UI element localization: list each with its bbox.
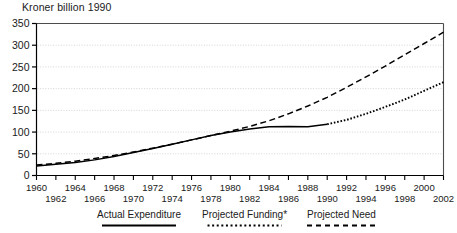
x-tick-label-row2: 1982 xyxy=(239,193,260,204)
x-tick-label-row2: 2002 xyxy=(433,193,454,204)
x-axis: 1960196419681972197619801984198819921996… xyxy=(26,176,454,204)
series-line-dashed xyxy=(37,32,444,165)
x-tick-label-row2: 1970 xyxy=(123,193,144,204)
y-tick-label: 300 xyxy=(12,39,30,51)
x-tick-label-row1: 1960 xyxy=(26,182,47,193)
x-tick-label-row1: 1980 xyxy=(220,182,241,193)
chart-legend: Actual ExpenditureProjected Funding*Proj… xyxy=(97,209,376,220)
x-tick-label-row1: 1992 xyxy=(336,182,357,193)
data-series-group xyxy=(37,32,444,166)
y-axis: 050100150200250300350 xyxy=(12,17,37,181)
x-tick-label-row1: 1996 xyxy=(375,182,396,193)
x-tick-label-row2: 1998 xyxy=(394,193,415,204)
x-tick-label-row2: 1966 xyxy=(84,193,105,204)
grid-lines xyxy=(38,45,443,154)
y-tick-label: 0 xyxy=(24,169,30,181)
y-tick-label: 100 xyxy=(12,126,30,138)
y-tick-label: 250 xyxy=(12,61,30,73)
y-tick-label: 200 xyxy=(12,82,30,94)
x-tick-label-row2: 1962 xyxy=(45,193,66,204)
x-tick-label-row1: 2000 xyxy=(414,182,435,193)
x-tick-label-row2: 1986 xyxy=(278,193,299,204)
legend-label-0: Actual Expenditure xyxy=(97,209,181,220)
chart-container: Kroner billion 1990 05010015020025030035… xyxy=(0,0,457,233)
legend-label-2: Projected Need xyxy=(307,209,376,220)
legend-label-1: Projected Funding* xyxy=(202,209,287,220)
x-tick-label-row1: 1976 xyxy=(181,182,202,193)
plot-frame xyxy=(37,24,444,176)
x-tick-label-row2: 1990 xyxy=(317,193,338,204)
x-tick-label-row2: 1978 xyxy=(200,193,221,204)
x-tick-label-row1: 1988 xyxy=(297,182,318,193)
x-tick-label-row1: 1968 xyxy=(103,182,124,193)
x-tick-label-row2: 1994 xyxy=(355,193,376,204)
x-tick-label-row2: 1974 xyxy=(162,193,183,204)
x-tick-label-row1: 1972 xyxy=(142,182,163,193)
y-tick-label: 50 xyxy=(18,148,30,160)
series-line-solid xyxy=(37,124,328,166)
x-tick-label-row1: 1984 xyxy=(259,182,280,193)
chart-plot: 0501001502002503003501960196419681972197… xyxy=(0,0,457,233)
y-tick-label: 350 xyxy=(12,17,30,29)
x-tick-label-row1: 1964 xyxy=(65,182,86,193)
y-tick-label: 150 xyxy=(12,104,30,116)
